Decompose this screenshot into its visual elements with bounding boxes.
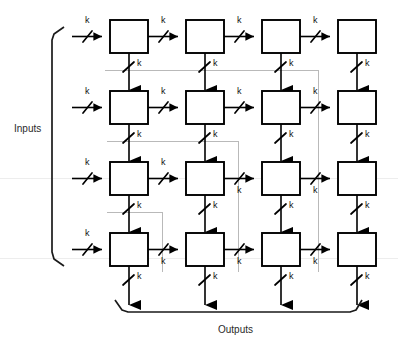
bus-label-h-r0-c3: k: [313, 16, 318, 25]
bus-label-v-c3-r2: k: [365, 201, 370, 210]
outputs-brace: [115, 300, 362, 312]
bus-label-v-c1-r1: k: [213, 130, 218, 139]
pe-cell: [110, 162, 148, 195]
bus-label-h-r1-c2: k: [237, 87, 242, 96]
pe-cell: [338, 91, 376, 124]
pe-cell: [262, 91, 300, 124]
bus-label-v-c1-r2: k: [213, 201, 218, 210]
bus-label-v-c3-r1: k: [365, 130, 370, 139]
inputs-brace: [52, 27, 64, 266]
pe-cells: [110, 20, 376, 266]
bus-label-v-c0-r3: k: [137, 272, 142, 281]
bus-label-h-r0-c1: k: [161, 16, 166, 25]
diagram-svg: [0, 0, 398, 352]
bus-label-v-c2-r0: k: [289, 59, 294, 68]
bus-label-h-r2-c2: k: [237, 186, 242, 195]
bus-label-h-r3-c1: k: [161, 257, 166, 266]
pe-cell: [262, 162, 300, 195]
pe-cell: [186, 91, 224, 124]
inputs-label: Inputs: [14, 124, 41, 134]
pe-cell: [186, 20, 224, 53]
bus-label-h-r1-c0: k: [85, 87, 90, 96]
outputs-label: Outputs: [218, 325, 253, 335]
bus-label-h-r1-c3: k: [313, 87, 318, 96]
bus-label-v-c2-r3: k: [289, 272, 294, 281]
bus-label-h-r2-c1: k: [161, 158, 166, 167]
pe-cell: [338, 233, 376, 266]
pe-cell: [186, 233, 224, 266]
bus-label-h-r0-c0: k: [85, 16, 90, 25]
bus-label-h-r2-c3: k: [313, 186, 318, 195]
pe-cell: [338, 20, 376, 53]
bus-label-v-c1-r0: k: [213, 59, 218, 68]
pe-cell: [262, 233, 300, 266]
bus-label-h-r1-c1: k: [161, 87, 166, 96]
diagram-canvas: Inputs Outputs k k k k k k k k k k k k k…: [0, 0, 398, 352]
pe-cell: [186, 162, 224, 195]
bus-label-h-r2-c0: k: [85, 158, 90, 167]
bus-label-h-r3-c3: k: [313, 257, 318, 266]
bus-label-v-c2-r2: k: [289, 201, 294, 210]
bus-label-v-c0-r2: k: [137, 201, 142, 210]
pe-cell: [338, 162, 376, 195]
bus-label-v-c3-r3: k: [365, 272, 370, 281]
bus-label-v-c0-r1: k: [137, 130, 142, 139]
pe-cell: [110, 233, 148, 266]
pe-cell: [110, 20, 148, 53]
pe-cell: [110, 91, 148, 124]
bus-label-v-c1-r3: k: [213, 272, 218, 281]
bus-label-h-r0-c2: k: [237, 16, 242, 25]
bus-label-h-r3-c2: k: [237, 257, 242, 266]
bus-label-v-c0-r0: k: [137, 59, 142, 68]
bus-label-v-c3-r0: k: [365, 59, 370, 68]
pe-cell: [262, 20, 300, 53]
bus-label-h-r3-c0: k: [85, 229, 90, 238]
bus-label-v-c2-r1: k: [289, 130, 294, 139]
